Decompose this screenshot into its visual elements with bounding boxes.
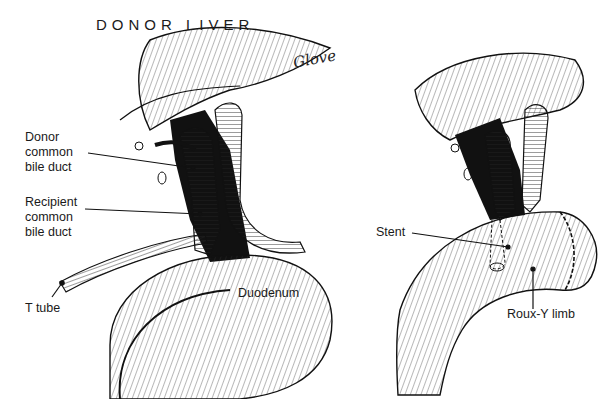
label-t-tube: T tube: [25, 301, 60, 316]
label-roux-y-limb: Roux-Y limb: [507, 307, 575, 322]
artery-right: [522, 105, 548, 212]
right-panel-drawing: [397, 53, 597, 395]
roux-y-limb: [397, 212, 597, 395]
label-duodenum: Duodenum: [238, 286, 299, 301]
label-stent: Stent: [376, 225, 405, 240]
label-recipient-common-bile-duct: Recipient common bile duct: [25, 195, 77, 240]
figure-title: DONOR LIVER: [96, 16, 254, 33]
label-donor-common-bile-duct: Donor common bile duct: [25, 130, 73, 175]
